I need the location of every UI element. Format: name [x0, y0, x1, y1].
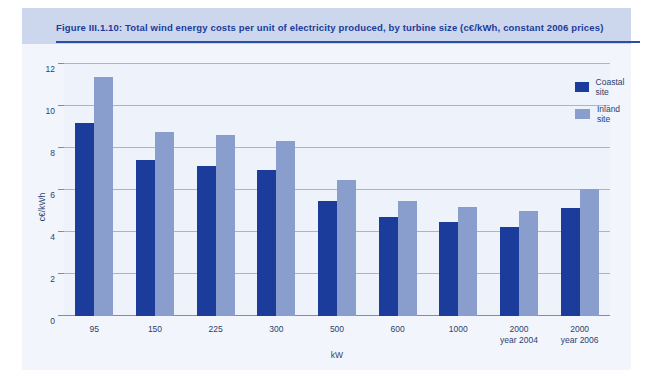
legend-label-coastal: Coastal site: [596, 77, 631, 97]
bar-group: 1000: [428, 64, 489, 316]
legend-swatch-coastal-icon: [575, 82, 589, 92]
x-tick-label: 2000year 2004: [489, 324, 550, 346]
bar-group: 300: [246, 64, 307, 316]
figure-root: Figure III.1.10: Total wind energy costs…: [0, 0, 655, 384]
bar-inland: [398, 201, 417, 317]
x-tick-label: 2000year 2006: [549, 324, 610, 346]
bar-coastal: [439, 222, 458, 317]
bar-pair: [367, 64, 428, 316]
bar-coastal: [75, 123, 94, 316]
x-tick-label: 225: [185, 324, 246, 335]
bar-pair: [246, 64, 307, 316]
bar-inland: [276, 141, 295, 316]
plot-wrapper: c€/kWh 024681012951502253005006001000200…: [22, 44, 631, 370]
bar-coastal: [379, 217, 398, 316]
x-tick-label: 150: [125, 324, 186, 335]
x-tick-label: 1000: [428, 324, 489, 335]
figure-header-band: Figure III.1.10: Total wind energy costs…: [22, 8, 631, 44]
bar-inland: [216, 135, 235, 316]
bar-coastal: [318, 201, 337, 317]
figure-title: Figure III.1.10: Total wind energy costs…: [56, 22, 646, 33]
bar-coastal: [257, 170, 276, 316]
bar-inland: [337, 180, 356, 317]
bar-group: 95: [64, 64, 125, 316]
x-tick-label: 300: [246, 324, 307, 335]
plot-area: 0246810129515022530050060010002000year 2…: [64, 64, 610, 316]
header-divider: [56, 41, 640, 43]
bar-inland: [580, 189, 599, 316]
legend-item-coastal: Coastal site: [575, 77, 631, 97]
bar-group: 150: [125, 64, 186, 316]
bar-group: 500: [307, 64, 368, 316]
bar-pair: [185, 64, 246, 316]
bar-group: 2000year 2004: [489, 64, 550, 316]
x-axis-title: kW: [64, 350, 610, 360]
bar-pair: [64, 64, 125, 316]
y-axis-title: c€/kWh: [37, 193, 47, 221]
bar-coastal: [197, 166, 216, 316]
bar-pair: [307, 64, 368, 316]
bar-pair: [428, 64, 489, 316]
legend-item-inland: Inland site: [575, 104, 631, 124]
bar-pair: [125, 64, 186, 316]
x-tick-label: 600: [367, 324, 428, 335]
x-tick-sublabel: year 2004: [489, 335, 550, 346]
bar-coastal: [500, 227, 519, 316]
bar-group: 225: [185, 64, 246, 316]
bar-inland: [519, 211, 538, 316]
legend-swatch-inland-icon: [575, 109, 590, 119]
bar-coastal: [136, 160, 155, 316]
bar-pair: [489, 64, 550, 316]
bar-inland: [458, 207, 477, 316]
legend-label-inland: Inland site: [597, 104, 631, 124]
bar-inland: [94, 77, 113, 316]
x-tick-sublabel: year 2006: [549, 335, 610, 346]
x-tick-label: 95: [64, 324, 125, 335]
bar-inland: [155, 132, 174, 316]
bar-coastal: [561, 208, 580, 316]
x-tick-label: 500: [307, 324, 368, 335]
chart-legend: Coastal site Inland site: [575, 77, 631, 131]
bar-group: 600: [367, 64, 428, 316]
